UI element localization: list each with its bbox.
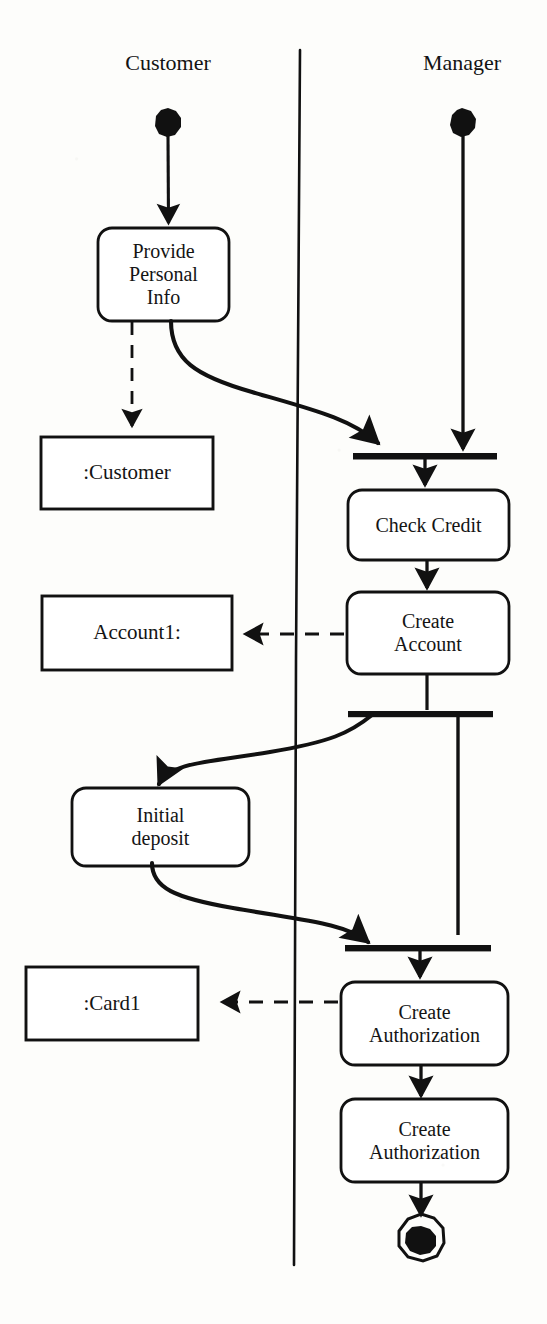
join-bar-two	[345, 945, 491, 977]
diagram-vector-layer	[0, 0, 547, 1324]
activity-node-provide-personal-info[interactable]	[98, 228, 229, 321]
initial-node-customer	[155, 108, 181, 223]
edge-provide-info-to-join-one	[171, 321, 378, 443]
edge-initial-deposit-to-join-two	[152, 863, 368, 942]
activity-diagram-canvas: Customer Manager Provide Personal Info :…	[0, 0, 547, 1324]
object-node-customer[interactable]	[41, 437, 213, 509]
swimlane-header-customer: Customer	[88, 50, 248, 76]
final-node	[399, 1214, 444, 1261]
swimlane-header-manager: Manager	[382, 50, 542, 76]
activity-node-initial-deposit[interactable]	[72, 788, 249, 866]
activity-node-create-account[interactable]	[347, 592, 509, 710]
object-node-card1[interactable]	[26, 967, 198, 1040]
initial-node-manager	[450, 108, 476, 449]
edge-fork-to-initial-deposit	[159, 715, 372, 784]
swimlane-divider	[294, 50, 300, 1265]
activity-node-create-authorization-1[interactable]	[341, 982, 508, 1096]
object-node-account1[interactable]	[42, 596, 232, 670]
join-bar-one	[353, 453, 497, 485]
fork-bar-one	[348, 711, 493, 935]
activity-node-check-credit[interactable]	[348, 490, 509, 588]
activity-node-create-authorization-2[interactable]	[341, 1099, 508, 1215]
